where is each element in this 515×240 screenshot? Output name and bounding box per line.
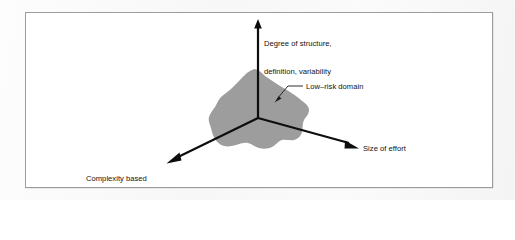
axis-label-size-of-effort: Size of effort xyxy=(363,144,406,153)
axis-label-complexity-line1: Complexity based xyxy=(86,174,147,183)
axis-label-degree-of-structure-line1: Degree of structure, xyxy=(264,39,332,48)
axis-label-degree-of-structure: Degree of structure, definition, variabi… xyxy=(264,20,332,86)
axis-label-complexity: Complexity based on past efforts xyxy=(86,155,147,200)
axis-label-degree-of-structure-line2: definition, variability xyxy=(264,67,332,76)
low-risk-domain-label: Low–risk domain xyxy=(306,82,363,91)
